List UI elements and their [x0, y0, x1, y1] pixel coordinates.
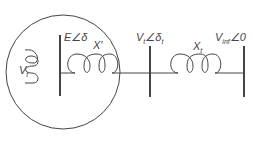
circuit-diagram [0, 0, 253, 143]
internal-emf-label: E∠δ [64, 32, 87, 43]
infinite-bus-label: Vinf∠0 [215, 32, 246, 45]
terminal-voltage-label: Vt [19, 65, 28, 78]
terminal-bus-voltage-label: Vt∠δt [136, 32, 163, 45]
transformer-reactance-inductor-icon [171, 54, 221, 73]
transient-reactance-inductor-icon [68, 54, 118, 73]
transient-reactance-label: X' [93, 40, 102, 51]
transformer-reactance-label: Xt [193, 41, 202, 54]
